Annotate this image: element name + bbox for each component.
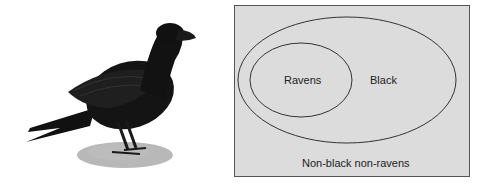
raven-illustration bbox=[0, 0, 230, 185]
ravens-label: Ravens bbox=[284, 74, 321, 86]
universe-rectangle bbox=[235, 6, 470, 177]
venn-diagram: Ravens Black Non-black non-ravens bbox=[234, 5, 470, 177]
non-black-non-ravens-label: Non-black non-ravens bbox=[302, 157, 410, 169]
black-label: Black bbox=[370, 74, 397, 86]
venn-diagram-canvas bbox=[234, 5, 470, 177]
